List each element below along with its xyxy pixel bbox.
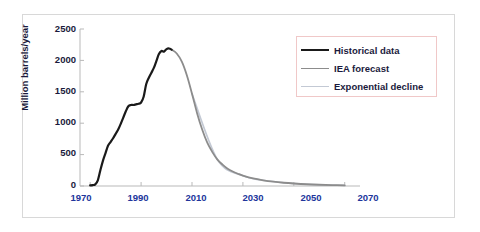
legend-swatch-iea-forecast: [301, 68, 329, 69]
legend-item-exponential-decline: Exponential decline: [301, 78, 423, 94]
chart-plot-area: [0, 0, 480, 232]
legend-swatch-historical-data: [301, 49, 329, 51]
chart-page: 2500 2000 1500 1000 500 0 Million barrel…: [0, 0, 480, 232]
legend-item-historical-data: Historical data: [301, 42, 399, 58]
chart-legend: Historical data IEA forecast Exponential…: [296, 36, 437, 97]
series-exponential-decline: [192, 94, 345, 186]
legend-item-iea-forecast: IEA forecast: [301, 60, 389, 76]
y-tick-marks: [80, 29, 84, 186]
series-historical-data: [90, 48, 171, 185]
legend-swatch-exponential-decline: [301, 86, 329, 87]
legend-label-exponential-decline: Exponential decline: [334, 81, 423, 92]
legend-label-historical-data: Historical data: [334, 45, 399, 56]
legend-label-iea-forecast: IEA forecast: [334, 63, 389, 74]
